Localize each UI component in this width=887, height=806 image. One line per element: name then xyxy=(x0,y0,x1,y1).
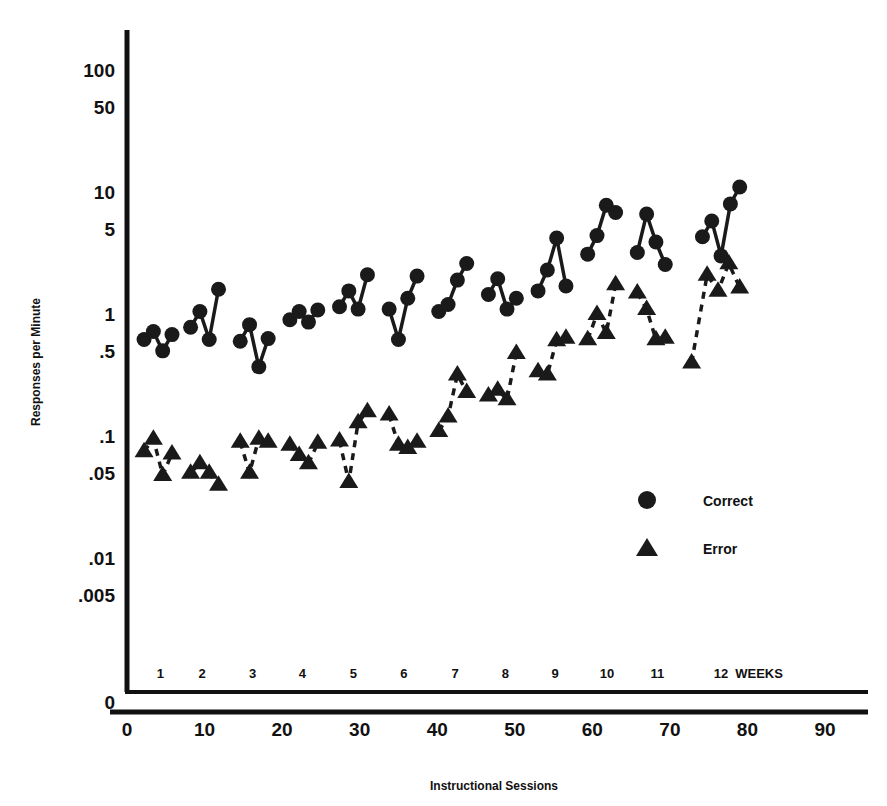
series-error-line xyxy=(439,375,467,432)
data-point-error xyxy=(730,278,749,294)
series-error-week-8 xyxy=(479,343,526,405)
data-point-error xyxy=(339,473,358,489)
series-error-week-4 xyxy=(280,433,327,469)
data-point-correct xyxy=(441,297,456,312)
series-correct-week-12 xyxy=(695,180,747,264)
x-tick-label-0: 0 xyxy=(122,719,133,740)
data-point-error xyxy=(507,343,526,359)
data-point-correct xyxy=(509,291,524,306)
y-tick-label-8: .01 xyxy=(89,548,116,569)
y-tick-label-4: 1 xyxy=(104,304,115,325)
data-point-correct xyxy=(192,304,207,319)
data-point-correct xyxy=(261,331,276,346)
data-point-correct xyxy=(146,324,161,339)
x-tick-label-2: 20 xyxy=(272,719,293,740)
y-tick-label-6: .1 xyxy=(99,426,115,447)
legend-marker-circle-icon xyxy=(638,491,656,509)
data-point-error xyxy=(330,431,349,447)
data-point-correct xyxy=(531,283,546,298)
data-point-correct xyxy=(695,229,710,244)
data-point-correct xyxy=(558,278,573,293)
data-point-correct xyxy=(351,302,366,317)
y-axis-ticks: 100501051.5.1.05.01.0050 xyxy=(78,60,115,713)
y-axis-title-text: Responses per Minute xyxy=(29,298,43,426)
week-tick-label-9: 10 xyxy=(600,666,614,681)
data-point-correct xyxy=(183,320,198,335)
series-correct-week-10 xyxy=(580,198,623,262)
data-point-correct xyxy=(630,245,645,260)
series-correct-week-3 xyxy=(233,317,276,374)
series-error-week-7 xyxy=(429,365,476,437)
x-tick-label-6: 60 xyxy=(582,719,603,740)
data-point-error xyxy=(308,433,327,449)
data-point-correct xyxy=(639,207,654,222)
y-axis-zero-label: 0 xyxy=(104,692,115,713)
data-point-correct xyxy=(391,332,406,347)
y-tick-label-7: .05 xyxy=(89,463,116,484)
chart-figure: 100501051.5.1.05.01.0050Responses per Mi… xyxy=(0,0,887,806)
y-tick-label-5: .5 xyxy=(99,341,115,362)
data-point-correct xyxy=(233,334,248,349)
series-correct-week-2 xyxy=(183,282,226,347)
data-point-correct xyxy=(211,282,226,297)
legend-item-error[interactable]: Error xyxy=(636,538,738,557)
data-point-correct xyxy=(658,257,673,272)
data-point-error xyxy=(408,432,427,448)
data-point-correct xyxy=(608,205,623,220)
data-point-correct xyxy=(589,228,604,243)
data-point-error xyxy=(637,299,656,315)
series-correct-week-7 xyxy=(431,256,474,319)
x-axis-title-text: Instructional Sessions xyxy=(430,779,558,793)
x-tick-label-4: 40 xyxy=(427,719,448,740)
series-error-week-1 xyxy=(135,429,182,481)
data-point-error xyxy=(606,275,625,291)
series-error-week-2 xyxy=(181,454,228,491)
data-point-error xyxy=(144,429,163,445)
series-error-week-6 xyxy=(380,405,427,454)
week-tick-label-7: 8 xyxy=(502,666,509,681)
series-correct-week-8 xyxy=(481,271,524,316)
legend-label-error: Error xyxy=(703,541,738,557)
data-point-correct xyxy=(202,332,217,347)
data-point-error xyxy=(190,454,209,470)
data-point-correct xyxy=(251,359,266,374)
data-point-correct xyxy=(341,283,356,298)
legend-label-correct: Correct xyxy=(703,493,753,509)
x-tick-label-1: 10 xyxy=(194,719,215,740)
data-point-correct xyxy=(400,291,415,306)
week-tick-label-0: 1 xyxy=(157,666,164,681)
series-correct-week-9 xyxy=(531,231,574,299)
series-error-line xyxy=(692,264,740,363)
axes xyxy=(110,30,868,712)
data-point-correct xyxy=(732,180,747,195)
x-tick-label-3: 30 xyxy=(349,719,370,740)
data-point-error xyxy=(448,365,467,381)
series-error-line xyxy=(637,293,665,340)
data-point-error xyxy=(597,323,616,339)
legend-item-correct[interactable]: Correct xyxy=(638,491,753,509)
series-correct-week-4 xyxy=(282,303,325,330)
data-point-correct xyxy=(155,343,170,358)
data-point-correct xyxy=(648,234,663,249)
week-tick-label-5: 6 xyxy=(400,666,407,681)
y-tick-label-9: .005 xyxy=(78,585,115,606)
x-tick-label-7: 70 xyxy=(659,719,680,740)
week-tick-label-8: 9 xyxy=(551,666,558,681)
series-error-week-5 xyxy=(330,402,377,488)
week-tick-label-3: 4 xyxy=(299,666,307,681)
data-point-correct xyxy=(723,196,738,211)
legend: CorrectError xyxy=(636,491,753,557)
y-tick-label-1: 50 xyxy=(94,97,115,118)
data-point-correct xyxy=(481,287,496,302)
week-tick-label-1: 2 xyxy=(199,666,206,681)
legend-marker-triangle-icon xyxy=(636,538,658,556)
week-tick-label-6: 7 xyxy=(451,666,458,681)
week-axis-ticks: 123456789101112WEEKS xyxy=(157,666,784,681)
data-point-error xyxy=(439,407,458,423)
series-error xyxy=(135,254,750,491)
series-error-week-9 xyxy=(529,328,576,380)
data-point-error xyxy=(698,265,717,281)
data-point-error xyxy=(429,422,448,438)
x-tick-label-8: 80 xyxy=(737,719,758,740)
x-tick-label-5: 50 xyxy=(504,719,525,740)
